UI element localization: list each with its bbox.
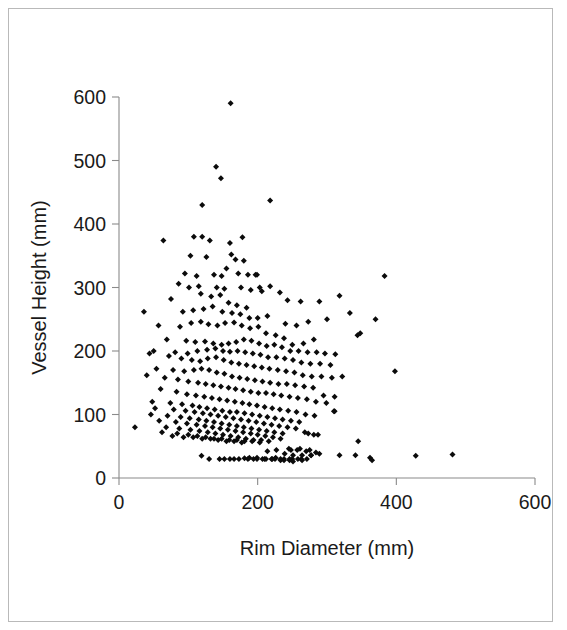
data-point (169, 433, 175, 439)
data-point (304, 396, 310, 402)
data-point (288, 418, 294, 424)
data-point (188, 320, 194, 326)
data-point (305, 319, 311, 325)
data-point (282, 321, 288, 327)
data-point (237, 375, 243, 381)
data-point (303, 412, 309, 418)
data-point (226, 385, 232, 391)
data-point (322, 351, 328, 357)
data-point (317, 361, 323, 367)
data-point (255, 324, 261, 330)
data-point (270, 434, 276, 440)
data-point (172, 349, 178, 355)
data-point (208, 436, 214, 442)
data-point (227, 409, 233, 415)
data-point (240, 387, 246, 393)
data-point (382, 273, 388, 279)
data-point (273, 332, 279, 338)
data-point (201, 306, 207, 312)
data-point (316, 298, 322, 304)
data-point (205, 321, 211, 327)
data-point (192, 409, 198, 415)
data-point (269, 405, 275, 411)
data-point (289, 342, 295, 348)
y-axis-title: Vessel Height (mm) (28, 200, 50, 375)
data-point (257, 413, 263, 419)
data-point (290, 357, 296, 363)
data-point (263, 330, 269, 336)
data-point (259, 365, 265, 371)
data-point (251, 363, 257, 369)
data-point (241, 424, 247, 430)
data-point (244, 305, 250, 311)
data-point (176, 281, 182, 287)
data-point (284, 297, 290, 303)
data-point (204, 347, 210, 353)
data-point (201, 394, 207, 400)
data-point (190, 307, 196, 313)
data-point (208, 293, 214, 299)
data-point (264, 313, 270, 319)
data-point (222, 320, 228, 326)
data-point (227, 456, 233, 462)
data-point (187, 253, 193, 259)
data-point (285, 408, 291, 414)
data-point (272, 415, 278, 421)
data-point (304, 456, 310, 462)
data-point (283, 368, 289, 374)
data-point (295, 395, 301, 401)
data-point (246, 418, 252, 424)
data-point (166, 353, 172, 359)
data-point (187, 415, 193, 421)
data-point (204, 405, 210, 411)
y-axis-tick-label: 500 (73, 150, 106, 172)
data-point (262, 433, 268, 439)
data-point (209, 395, 215, 401)
data-point (165, 413, 171, 419)
data-point (318, 373, 324, 379)
data-point (194, 422, 200, 428)
y-axis-tick-label: 0 (95, 467, 106, 489)
data-point (269, 422, 275, 428)
data-point (203, 418, 209, 424)
data-point (180, 434, 186, 440)
data-point (217, 292, 223, 298)
data-point (198, 291, 204, 297)
data-point (256, 340, 262, 346)
scatter-plot: 02004006000100200300400500600Rim Diamete… (0, 0, 567, 630)
chart-svg: 02004006000100200300400500600Rim Diamete… (0, 0, 567, 630)
data-point (329, 375, 335, 381)
data-point (308, 452, 314, 458)
data-point (178, 414, 184, 420)
data-point (214, 323, 220, 329)
data-point (242, 349, 248, 355)
data-point (183, 408, 189, 414)
data-point (309, 373, 315, 379)
data-point (199, 202, 205, 208)
data-point (232, 428, 238, 434)
data-point (244, 376, 250, 382)
data-point (255, 390, 261, 396)
data-point (305, 349, 311, 355)
data-point (336, 452, 342, 458)
data-point (225, 427, 231, 433)
data-point (226, 300, 232, 306)
data-point (248, 338, 254, 344)
data-point (219, 420, 225, 426)
data-point (413, 453, 419, 459)
data-point (223, 265, 229, 271)
data-point (214, 370, 220, 376)
data-point (203, 381, 209, 387)
data-point (202, 423, 208, 429)
data-point (234, 409, 240, 415)
data-point (300, 340, 306, 346)
data-point (227, 240, 233, 246)
data-point (247, 325, 253, 331)
data-point (198, 319, 204, 325)
data-point (253, 419, 259, 425)
data-point (241, 410, 247, 416)
data-point (239, 323, 245, 329)
data-point-layer (132, 100, 456, 464)
data-point (246, 315, 252, 321)
data-point (248, 425, 254, 431)
